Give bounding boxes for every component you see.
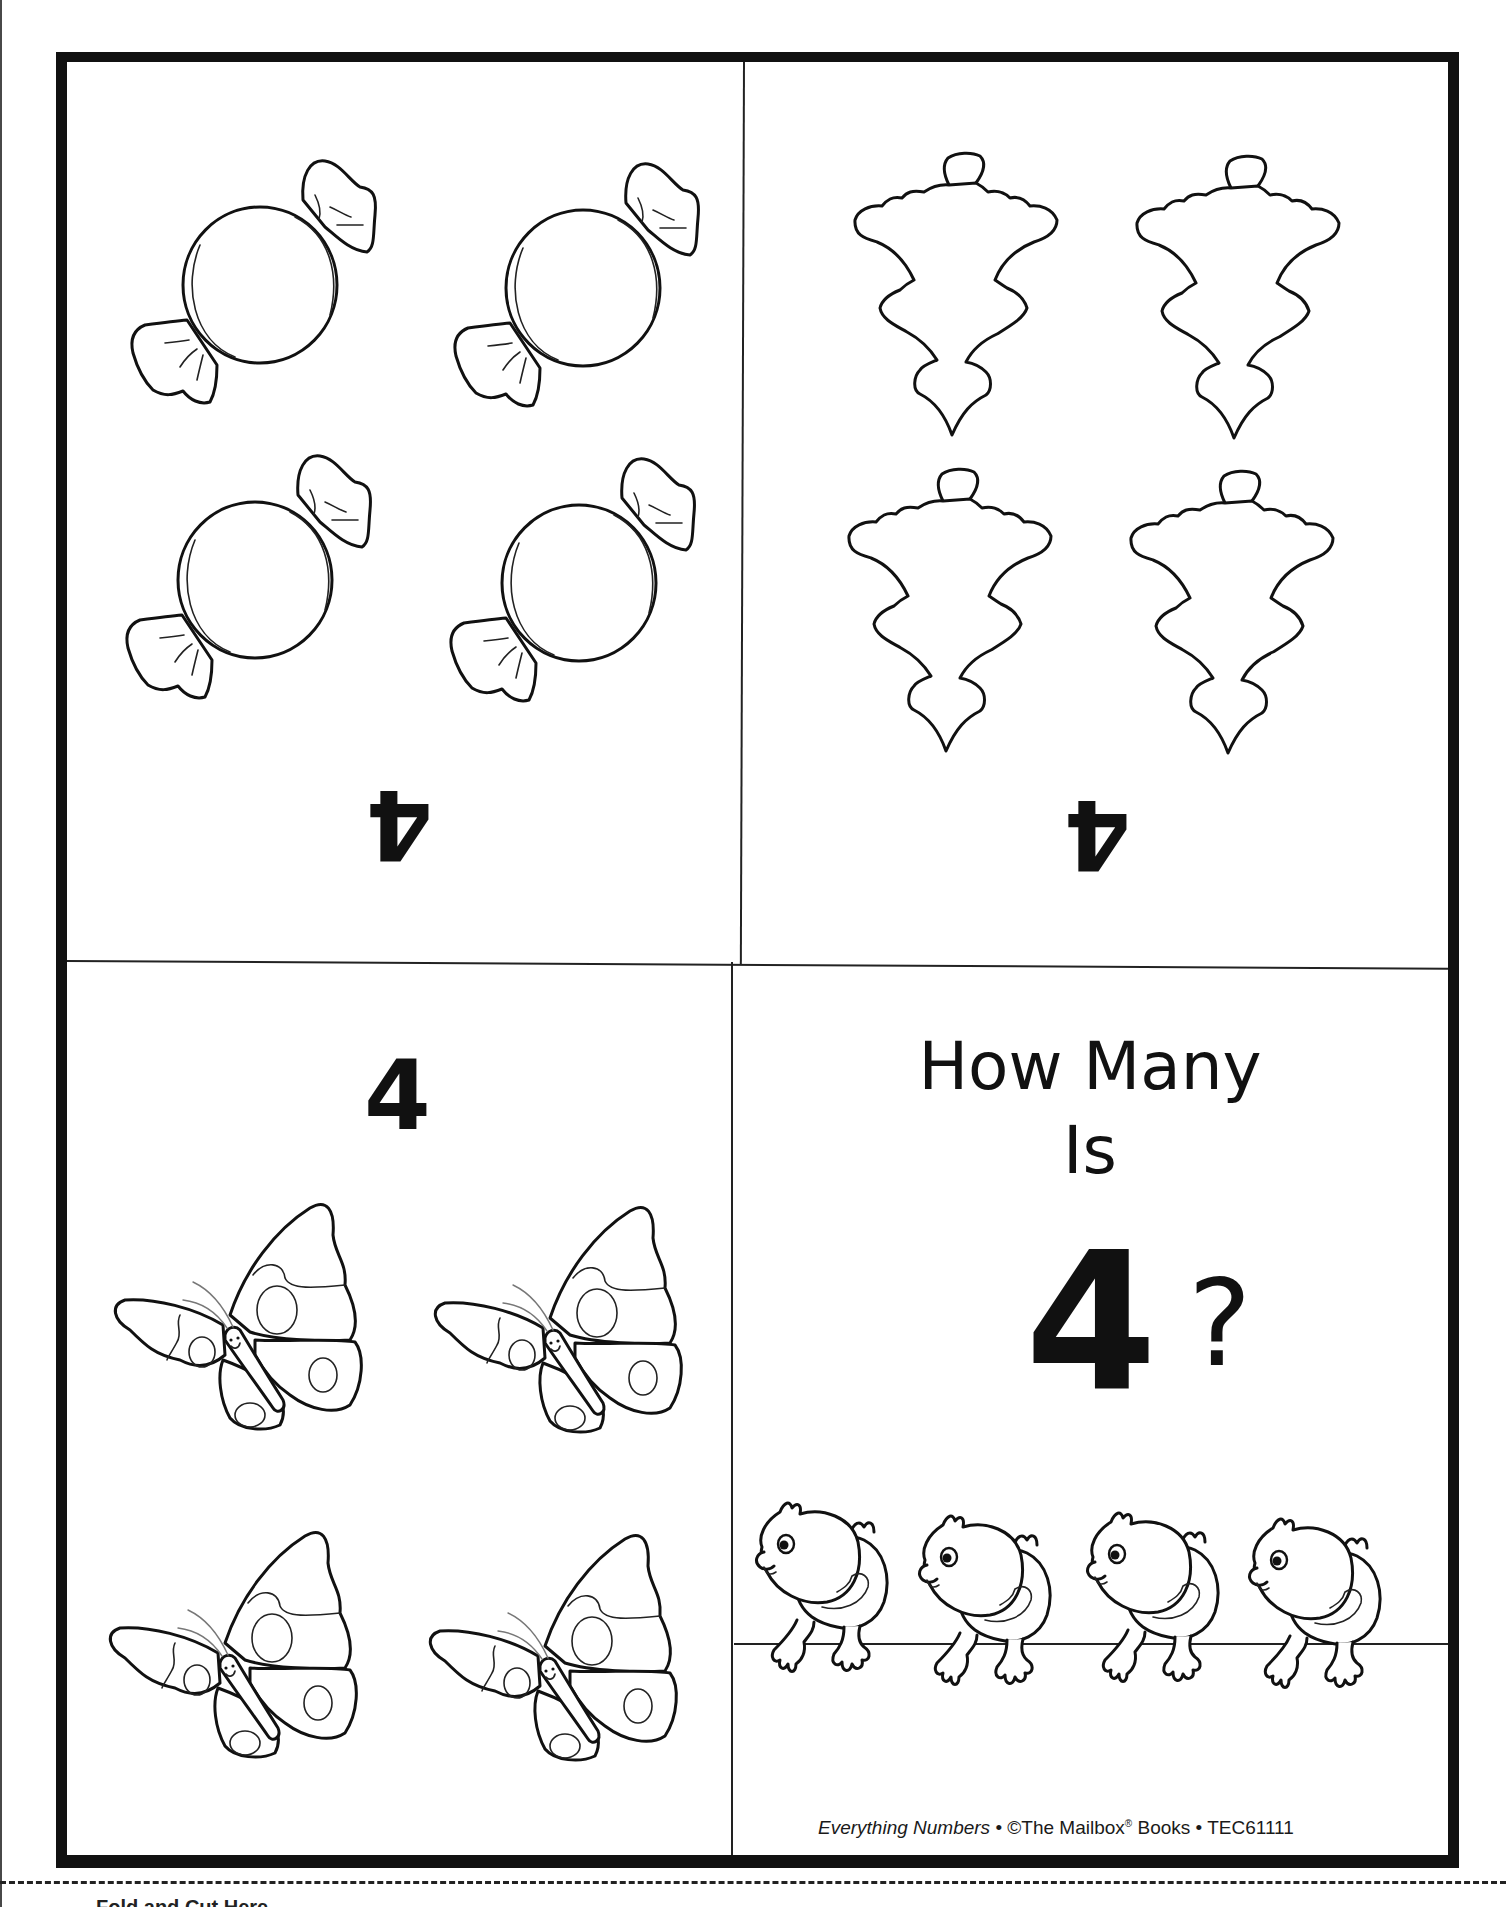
candy-icon (448, 158, 708, 413)
big-numeral: 4 (1025, 1228, 1157, 1418)
page-edge (0, 0, 2, 1907)
title-line-2: Is (880, 1118, 1300, 1184)
chick-icon (752, 1492, 912, 1692)
butterfly-icon (100, 1518, 360, 1768)
publisher-suffix: Books (1132, 1817, 1190, 1838)
butterfly-icon (420, 1521, 680, 1771)
product-code: TEC61111 (1207, 1817, 1294, 1838)
numeral-upside-down: 4 (1064, 786, 1131, 882)
chick-icon (1245, 1508, 1405, 1708)
butterfly-icon (425, 1193, 685, 1443)
candy-icon (125, 155, 385, 410)
credit-separator: • (1190, 1817, 1207, 1838)
panel-divider-vertical-bottom (731, 962, 733, 1855)
ornament-icon (1134, 153, 1354, 443)
ornament-icon (852, 150, 1072, 440)
chick-icon (915, 1505, 1075, 1705)
butterfly-icon (105, 1190, 365, 1440)
candy-icon (120, 450, 380, 705)
ornament-icon (846, 466, 1066, 756)
candy-icon (444, 453, 704, 708)
numeral-upright: 4 (364, 1048, 431, 1144)
cut-line (0, 1881, 1506, 1884)
credit-separator: • (990, 1817, 1007, 1838)
title-line-1: How Many (880, 1034, 1300, 1100)
chick-icon (1083, 1502, 1243, 1702)
publisher-name: ©The Mailbox (1007, 1817, 1125, 1838)
question-mark: ? (1188, 1264, 1252, 1384)
ornament-icon (1128, 468, 1348, 758)
copyright-credit: Everything Numbers • ©The Mailbox® Books… (818, 1817, 1294, 1839)
cut-instruction-text: Fold and Cut Here (96, 1897, 268, 1907)
booklet-page: 4 4 4 (0, 0, 1506, 1907)
series-title: Everything Numbers (818, 1817, 990, 1838)
numeral-upside-down: 4 (366, 776, 433, 872)
